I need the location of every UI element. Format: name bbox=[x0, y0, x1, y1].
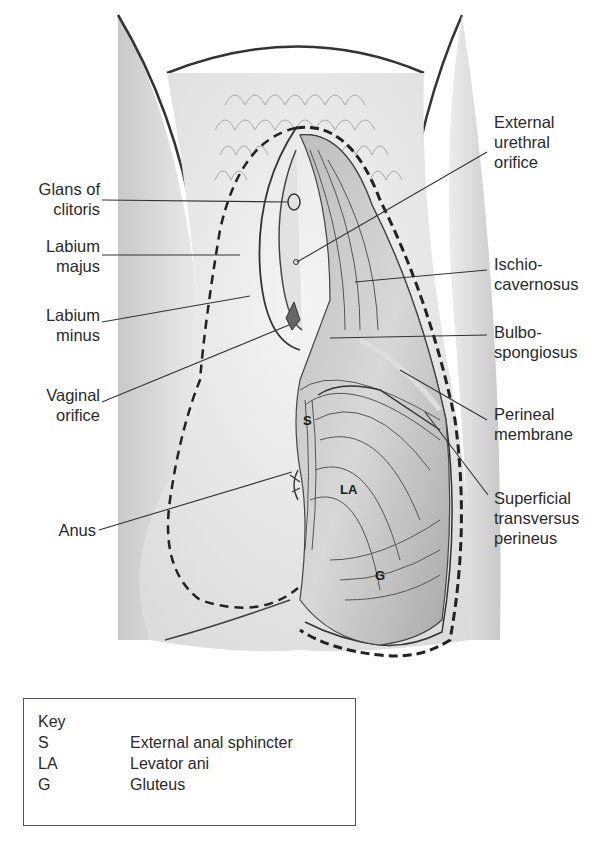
label-bulbospongiosus: Bulbo- spongiosus bbox=[494, 322, 577, 362]
key-row: LA Levator ani bbox=[38, 753, 355, 774]
label-glans-of-clitoris: Glans of clitoris bbox=[20, 179, 100, 219]
label-g: G bbox=[375, 568, 385, 583]
key-meaning: Levator ani bbox=[130, 753, 209, 774]
key-legend: Key S External anal sphincter LA Levator… bbox=[23, 698, 356, 826]
label-labium-majus: Labium majus bbox=[20, 236, 100, 276]
label-ischiocavernosus: Ischio- cavernosus bbox=[494, 254, 578, 294]
key-row: S External anal sphincter bbox=[38, 732, 355, 753]
key-abbr: S bbox=[38, 732, 130, 753]
key-abbr: LA bbox=[38, 753, 130, 774]
key-row: G Gluteus bbox=[38, 774, 355, 795]
perineum-diagram: Glans of clitoris Labium majus Labium mi… bbox=[0, 0, 615, 690]
label-perineal-membrane: Perineal membrane bbox=[494, 404, 573, 444]
label-s: S bbox=[303, 413, 312, 428]
key-abbr: G bbox=[38, 774, 130, 795]
label-vaginal-orifice: Vaginal orifice bbox=[20, 385, 100, 425]
label-anus: Anus bbox=[20, 520, 96, 540]
label-external-urethral-orifice: External urethral orifice bbox=[494, 112, 555, 172]
label-labium-minus: Labium minus bbox=[20, 305, 100, 345]
label-superficial-transversus-perineus: Superficial transversus perineus bbox=[494, 488, 579, 548]
key-meaning: External anal sphincter bbox=[130, 732, 293, 753]
key-title: Key bbox=[38, 711, 355, 732]
label-la: LA bbox=[340, 482, 357, 497]
key-meaning: Gluteus bbox=[130, 774, 185, 795]
